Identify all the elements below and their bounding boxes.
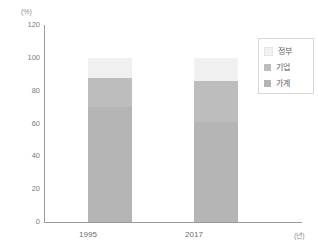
x-tick-2017: 2017 xyxy=(164,230,224,239)
y-tick-0: 0 xyxy=(14,218,40,226)
stacked-bar-chart: (%) (년) 120 100 80 60 40 20 0 1995 2017 … xyxy=(0,0,318,251)
legend: 정부 기업 가계 xyxy=(258,38,314,94)
bar-segment-2017-가계 xyxy=(194,122,238,222)
y-axis-tick-labels: 120 100 80 60 40 20 0 xyxy=(12,0,40,251)
legend-item-household[interactable]: 가계 xyxy=(264,76,309,91)
legend-label-business: 기업 xyxy=(276,63,290,72)
x-axis-unit-label: (년) xyxy=(294,230,305,240)
legend-swatch-icon-household xyxy=(264,80,271,87)
y-tick-20: 20 xyxy=(14,185,40,193)
legend-label-household: 가계 xyxy=(276,79,290,88)
bar-stack-2017[interactable] xyxy=(194,58,238,222)
bar-segment-1995-정부 xyxy=(88,58,132,78)
y-tick-60: 60 xyxy=(14,120,40,128)
legend-swatch-icon-business xyxy=(264,64,271,71)
y-tick-80: 80 xyxy=(14,87,40,95)
legend-item-business[interactable]: 기업 xyxy=(264,60,309,75)
x-tick-1995: 1995 xyxy=(58,230,118,239)
legend-item-government[interactable]: 정부 xyxy=(264,44,309,59)
bar-segment-2017-기업 xyxy=(194,81,238,122)
bar-stack-1995[interactable] xyxy=(88,58,132,222)
y-tick-40: 40 xyxy=(14,152,40,160)
legend-swatch-icon-government xyxy=(264,47,273,56)
y-tick-100: 100 xyxy=(14,54,40,62)
y-tick-120: 120 xyxy=(14,21,40,29)
bar-segment-1995-가계 xyxy=(88,107,132,222)
bar-segment-1995-기업 xyxy=(88,78,132,108)
x-axis-line xyxy=(44,222,302,223)
legend-label-government: 정부 xyxy=(278,47,292,56)
bar-segment-2017-정부 xyxy=(194,58,238,81)
